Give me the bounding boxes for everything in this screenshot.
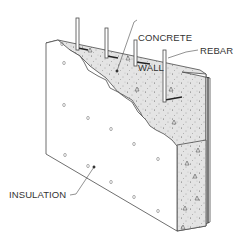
concrete-wall-label-line2: WALL xyxy=(138,63,192,73)
wall-diagram: CONCRETE WALL REBAR INSULATION xyxy=(0,0,243,241)
concrete-wall-label: CONCRETE WALL xyxy=(138,13,192,93)
insulation-label: INSULATION xyxy=(9,190,66,200)
wall-cutaway-illustration xyxy=(0,0,243,241)
rebar-label: REBAR xyxy=(200,46,233,56)
concrete-wall-label-line1: CONCRETE xyxy=(138,33,192,43)
